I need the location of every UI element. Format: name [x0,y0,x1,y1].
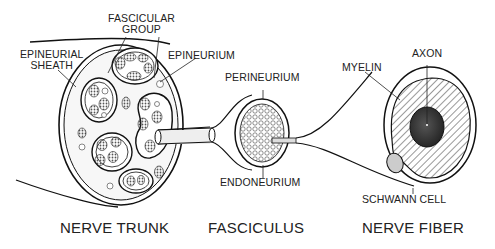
endoneurium-shape [240,104,284,162]
label-epineurium: EPINEURIUM [168,50,235,61]
caption-nerve-trunk: NERVE TRUNK [60,219,169,236]
nerve-diagram-drawing [0,0,495,249]
label-axon: AXON [412,48,442,59]
label-perineurium: PERINEURIUM [225,72,300,83]
label-epineurial-sheath-line2: SHEATH [20,60,83,71]
label-fascicular-group: FASCICULAR GROUP [108,13,175,35]
caption-nerve-fiber: NERVE FIBER [362,219,464,236]
label-schwann-cell: SCHWANN CELL [362,194,446,205]
label-epineurial-sheath: EPINEURIAL SHEATH [20,49,83,71]
fascicle-left [81,78,117,122]
fascicle-bottom [119,169,153,193]
nerve-fiber-illustration [384,67,476,183]
label-endoneurium: ENDONEURIUM [220,177,300,188]
label-fascicular-group-line2: GROUP [108,24,175,35]
fascicle-bottom-left [92,133,132,171]
fascicle-top [112,48,158,84]
caption-fasciculus: FASCICULUS [208,219,304,236]
label-myelin: MYELIN [342,62,382,73]
